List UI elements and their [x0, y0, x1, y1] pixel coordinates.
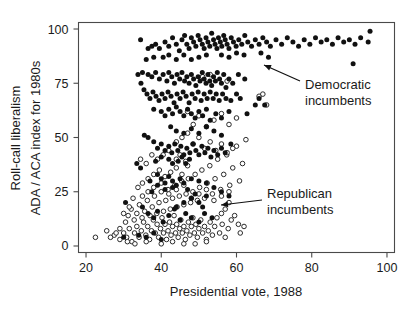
- data-point: [180, 231, 185, 236]
- data-point: [169, 94, 174, 99]
- data-point: [221, 33, 226, 38]
- data-point: [230, 166, 235, 171]
- data-point: [185, 187, 190, 192]
- data-point: [219, 194, 224, 199]
- data-point: [193, 172, 198, 177]
- data-point: [238, 231, 243, 236]
- data-point: [135, 211, 140, 216]
- data-point: [366, 40, 371, 45]
- data-point: [261, 92, 266, 97]
- data-point: [187, 157, 192, 162]
- data-point: [204, 35, 209, 40]
- data-point: [182, 242, 187, 247]
- data-point: [183, 211, 188, 216]
- data-point: [158, 226, 163, 231]
- data-point: [200, 113, 205, 118]
- data-point: [196, 33, 201, 38]
- data-point: [232, 213, 237, 218]
- data-point: [187, 150, 192, 155]
- data-point: [226, 226, 231, 231]
- data-point: [208, 220, 213, 225]
- data-point: [249, 44, 254, 49]
- data-point: [213, 176, 218, 181]
- data-point: [160, 92, 165, 97]
- data-point: [215, 70, 220, 75]
- data-point: [204, 239, 209, 244]
- data-point: [140, 70, 145, 75]
- data-point: [151, 230, 156, 235]
- data-point: [221, 72, 226, 77]
- data-point: [155, 222, 160, 227]
- data-point: [219, 189, 224, 194]
- data-point: [200, 70, 205, 75]
- data-point: [132, 218, 137, 223]
- data-point: [347, 37, 352, 42]
- data-point: [242, 53, 247, 58]
- data-point: [214, 92, 219, 97]
- data-point: [274, 37, 279, 42]
- data-point: [199, 144, 204, 149]
- data-point: [131, 196, 136, 201]
- data-point: [190, 92, 195, 97]
- data-point: [191, 122, 196, 127]
- data-point: [189, 224, 194, 229]
- data-point: [177, 48, 182, 53]
- x-axis-title: Presidential vote, 1988: [170, 284, 302, 299]
- data-point: [149, 189, 154, 194]
- data-point: [191, 76, 196, 81]
- data-point: [169, 74, 174, 79]
- data-point: [140, 194, 145, 199]
- y-axis-title-line2: ADA / ACA index for 1980s: [28, 60, 43, 215]
- data-point: [184, 94, 189, 99]
- data-point: [202, 76, 207, 81]
- democratic-annotation-line2: incumbents: [305, 93, 372, 108]
- data-point: [144, 161, 149, 166]
- data-point: [204, 194, 209, 199]
- data-point: [313, 35, 318, 40]
- data-point: [169, 233, 174, 238]
- data-point: [166, 157, 171, 162]
- data-point: [187, 46, 192, 51]
- data-point: [208, 89, 213, 94]
- data-point: [200, 168, 205, 173]
- data-point: [202, 92, 207, 97]
- data-point: [145, 198, 150, 203]
- data-point: [196, 178, 201, 183]
- data-point: [153, 42, 158, 47]
- data-point: [198, 37, 203, 42]
- data-point: [207, 79, 212, 84]
- data-point: [172, 142, 177, 147]
- data-point: [121, 211, 126, 216]
- data-point: [126, 213, 131, 218]
- data-point: [121, 231, 126, 236]
- data-point: [184, 146, 189, 151]
- data-point: [205, 96, 210, 101]
- data-point: [207, 44, 212, 49]
- data-point: [213, 111, 218, 116]
- data-point: [242, 76, 247, 81]
- data-point: [202, 46, 207, 51]
- data-point: [187, 100, 192, 105]
- data-point: [211, 96, 216, 101]
- data-point: [147, 96, 152, 101]
- data-point: [279, 42, 284, 47]
- plot-frame: [79, 23, 395, 253]
- democratic-annotation-line1: Democratic: [305, 77, 371, 92]
- data-point: [118, 226, 123, 231]
- data-point: [127, 226, 132, 231]
- data-point: [223, 235, 228, 240]
- x-tick-label: 20: [79, 261, 93, 275]
- data-point: [161, 231, 166, 236]
- data-point: [178, 144, 183, 149]
- data-point: [189, 215, 194, 220]
- data-point: [223, 150, 228, 155]
- data-point: [174, 222, 179, 227]
- data-point: [229, 218, 234, 223]
- data-point: [157, 46, 162, 51]
- data-point: [181, 113, 186, 118]
- data-point: [341, 40, 346, 45]
- data-point: [324, 37, 329, 42]
- data-point: [217, 231, 222, 236]
- data-point: [170, 111, 175, 116]
- data-point: [202, 211, 207, 216]
